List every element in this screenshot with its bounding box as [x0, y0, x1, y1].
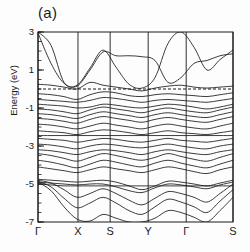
x-tick-label: S	[223, 226, 243, 237]
plot-frame	[38, 32, 233, 222]
x-tick-label: Γ	[176, 226, 196, 237]
x-tick-label: S	[100, 226, 120, 237]
high-symmetry-gridlines	[38, 32, 233, 222]
x-tick-label: X	[68, 226, 88, 237]
band-structure-figure: (a) Energy (eV) 31-1-3-5-7 ΓXSYΓS	[0, 0, 250, 252]
x-tick-label: Y	[138, 226, 158, 237]
band-structure-plot	[0, 0, 250, 252]
band-curves	[38, 32, 233, 223]
x-tick-label: Γ	[28, 226, 48, 237]
y-axis-minor-ticks	[38, 32, 42, 222]
